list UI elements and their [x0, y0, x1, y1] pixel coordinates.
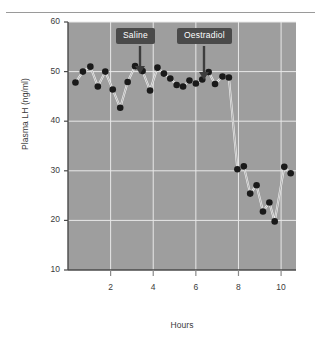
data-point	[193, 80, 200, 87]
y-tick-label: 30	[34, 165, 60, 175]
data-point	[117, 105, 124, 112]
data-point	[173, 82, 180, 89]
data-point	[186, 77, 193, 84]
y-tick-label: 40	[34, 115, 60, 125]
data-point	[95, 83, 102, 90]
data-point	[281, 164, 288, 171]
y-axis-title: Plasma LH (ng/ml)	[20, 49, 30, 179]
x-axis-title: Hours	[68, 320, 296, 330]
data-point	[253, 182, 260, 189]
data-point	[271, 218, 278, 225]
data-point	[247, 190, 254, 197]
x-axis-tickmarks	[111, 270, 281, 276]
y-tick-label: 60	[34, 16, 60, 26]
y-tick-label: 20	[34, 214, 60, 224]
data-point	[161, 70, 168, 77]
annotation-label-saline: Saline	[116, 28, 155, 44]
data-point	[102, 68, 109, 75]
data-point	[212, 81, 219, 88]
annotation-label-oestradiol: Oestradiol	[177, 28, 232, 44]
data-point	[226, 74, 233, 81]
data-point	[266, 199, 273, 206]
x-tick-label: 8	[226, 282, 250, 292]
x-tick-label: 2	[99, 282, 123, 292]
plot-area-background	[68, 22, 296, 270]
data-point	[154, 64, 161, 71]
chart-figure: 102030405060 246810 Plasma LH (ng/ml) Ho…	[0, 0, 321, 343]
data-point	[80, 68, 87, 75]
data-point	[167, 75, 174, 82]
data-point	[87, 63, 94, 70]
data-point	[287, 170, 294, 177]
data-point	[147, 87, 154, 94]
data-point	[72, 79, 79, 86]
data-point	[109, 86, 116, 93]
y-tick-label: 10	[34, 264, 60, 274]
data-point	[219, 73, 226, 80]
x-tick-label: 4	[141, 282, 165, 292]
data-point	[260, 208, 267, 215]
x-tick-label: 6	[184, 282, 208, 292]
data-point	[234, 166, 241, 173]
y-tick-label: 50	[34, 66, 60, 76]
data-point	[124, 79, 131, 86]
x-tick-label: 10	[269, 282, 293, 292]
data-point	[240, 163, 247, 170]
data-point	[180, 83, 187, 90]
